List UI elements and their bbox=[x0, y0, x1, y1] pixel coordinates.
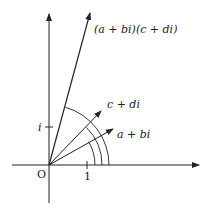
vector-product bbox=[49, 13, 90, 165]
arc-a-plus-bi bbox=[89, 142, 95, 165]
real-tick-label: 1 bbox=[84, 170, 91, 183]
label-a-plus-bi: a + bi bbox=[117, 128, 150, 141]
imag-tick-label: i bbox=[38, 121, 42, 134]
vector-a-plus-bi bbox=[49, 129, 113, 165]
label-c-plus-di: c + di bbox=[107, 98, 140, 111]
complex-plane-diagram: O 1 i a + bi c + di (a + bi)(c + di) bbox=[0, 0, 209, 216]
arc-product bbox=[66, 107, 110, 165]
label-product: (a + bi)(c + di) bbox=[94, 23, 177, 36]
origin-label: O bbox=[37, 168, 46, 181]
